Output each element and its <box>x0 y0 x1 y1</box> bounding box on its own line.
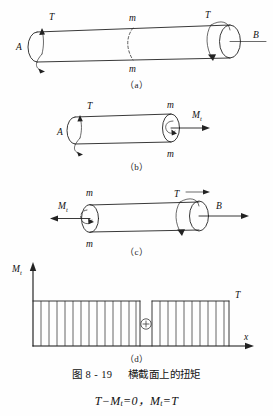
equation-part-3: =T <box>163 394 178 408</box>
internal-torque-arrowhead-b <box>202 125 210 131</box>
internal-torque-spiral-head-b <box>171 130 177 136</box>
figure-page: A B T T m m （a） <box>0 0 273 416</box>
label-Mt-sub-b: t <box>200 115 202 122</box>
equation-part-1: T−M <box>95 394 121 408</box>
label-A-a: A <box>15 42 22 52</box>
shaft-top-line-c <box>90 202 199 205</box>
equation-part-2: =0，M <box>123 394 160 408</box>
panel-c-drawing: M t m m T B <box>0 185 273 249</box>
label-m-bottom-a: m <box>129 64 136 74</box>
label-m-top-a: m <box>129 13 136 23</box>
hatch-group-right <box>160 301 224 346</box>
label-m-bottom-b: m <box>167 149 174 159</box>
panel-d: M t x T <box>0 258 273 354</box>
torque-value-label: T <box>235 290 241 300</box>
y-axis-arrowhead <box>30 262 36 271</box>
label-A-b: A <box>56 127 63 137</box>
figure-caption-title: 横截面上的扭矩 <box>128 368 201 380</box>
figure-equation: T−Mt=0，Mt=T <box>0 391 273 409</box>
shaft-bottom-line-b <box>75 142 171 144</box>
torque-direction-arrowhead-c <box>203 190 210 195</box>
label-T-right-a: T <box>205 10 211 20</box>
shaft-top-line-a <box>37 25 230 32</box>
label-T-b: T <box>87 101 93 111</box>
label-T-left-a: T <box>49 12 55 22</box>
x-axis-arrowhead <box>245 343 254 349</box>
x-axis-label: x <box>243 332 249 342</box>
shaft-left-cap-a <box>28 32 37 62</box>
torque-arrowhead-right-c <box>177 229 185 236</box>
panel-label-d: （d） <box>0 352 273 365</box>
torque-arrowhead-right-a <box>208 54 216 61</box>
internal-torque-spiral-head-c <box>88 218 94 224</box>
shaft-top-line-b <box>75 114 171 117</box>
torque-arrowtail-left-a <box>38 69 45 74</box>
label-Mt-sub-c: t <box>66 206 68 213</box>
panel-c: M t m m T B <box>0 185 273 249</box>
sign-marker-positive <box>141 319 151 329</box>
shaft-bottom-line-a <box>37 58 230 62</box>
torque-arrowhead-left-b <box>77 115 82 122</box>
panel-b-drawing: A T m m M t <box>0 100 273 162</box>
section-mm-dashed-arc-a <box>128 28 133 60</box>
panel-a: A B T T m m <box>0 6 273 84</box>
panel-label-c: （c） <box>0 245 273 258</box>
internal-torque-arrowhead-c <box>50 216 58 222</box>
torque-arc-right-lower-a <box>207 25 212 58</box>
panel-b: A T m m M t <box>0 100 273 162</box>
torque-arc-right-lower-c <box>176 202 181 233</box>
label-B-c: B <box>216 201 222 211</box>
label-B-a: B <box>253 30 259 40</box>
figure-caption: 图 8 - 19 横截面上的扭矩 <box>0 366 273 381</box>
torque-arc-left-a <box>36 54 42 71</box>
torque-arc-left-b <box>74 138 80 154</box>
torque-arrowtail-left-b <box>77 152 83 157</box>
panel-label-a: （a） <box>0 78 273 91</box>
panel-label-b: （b） <box>0 160 273 173</box>
shaft-left-cap-b <box>67 117 75 144</box>
y-axis-label-sub: t <box>20 269 22 276</box>
figure-caption-number: 图 8 - 19 <box>72 369 112 380</box>
panel-a-drawing: A B T T m m <box>0 6 273 84</box>
label-T-c: T <box>174 189 180 199</box>
label-m-top-c: m <box>86 188 93 198</box>
shaft-axis-arrowhead-c <box>241 213 249 219</box>
label-m-top-b: m <box>167 100 174 110</box>
torque-diagram-chart: M t x T <box>0 258 273 354</box>
hatch-group-left <box>41 301 136 346</box>
